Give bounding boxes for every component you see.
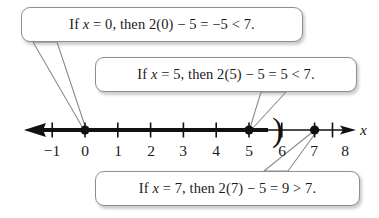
tick-label-5: 5	[236, 142, 262, 160]
number-line-figure: ) −1 0 1 2 3 4 5 6 7 8 x If x = 0, then …	[0, 0, 379, 218]
axis-label-x: x	[360, 121, 367, 139]
callout-box-x-equals-5: If x = 5, then 2(5) − 5 = 5 < 7.	[95, 57, 357, 92]
tick-label-2: 2	[138, 142, 164, 160]
callout-box-x-equals-7: If x = 7, then 2(7) − 5 = 9 > 7.	[95, 171, 360, 206]
open-interval-parenthesis: )	[272, 114, 283, 147]
point-marker-5	[244, 125, 253, 134]
point-marker-7	[310, 125, 319, 134]
point-marker-0	[80, 125, 89, 134]
callout-text-x-equals-0: If x = 0, then 2(0) − 5 = −5 < 7.	[69, 17, 255, 32]
tick-label-0: 0	[72, 142, 98, 160]
tick-label-8: 8	[332, 142, 358, 160]
left-arrowhead	[24, 123, 46, 137]
tick-label-4: 4	[203, 142, 229, 160]
callout-text-x-equals-5: If x = 5, then 2(5) − 5 = 5 < 7.	[137, 67, 314, 82]
tick-label-3: 3	[170, 142, 196, 160]
callout-box-x-equals-0: If x = 0, then 2(0) − 5 = −5 < 7.	[21, 7, 303, 42]
tick-label--1: −1	[39, 142, 65, 160]
tick-label-1: 1	[105, 142, 131, 160]
callout-text-x-equals-7: If x = 7, then 2(7) − 5 = 9 > 7.	[139, 181, 316, 196]
tick-label-7: 7	[301, 142, 327, 160]
